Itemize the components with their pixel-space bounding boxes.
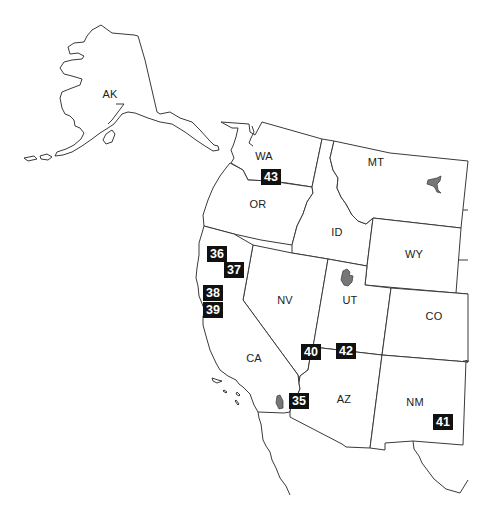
baja-coast [258, 412, 290, 495]
island-aleutian-1 [24, 156, 37, 161]
island-channel-3 [236, 392, 240, 396]
marker-40[interactable]: 40 [301, 344, 321, 360]
state-label-wy: WY [405, 248, 423, 260]
state-label-az: AZ [337, 393, 351, 405]
marker-39[interactable]: 39 [203, 302, 223, 318]
marker-38[interactable]: 38 [203, 285, 223, 301]
rio-grande [413, 441, 468, 493]
marker-43[interactable]: 43 [261, 169, 281, 185]
marker-42[interactable]: 42 [336, 343, 356, 359]
state-label-id: ID [331, 226, 342, 238]
marker-37[interactable]: 37 [224, 262, 244, 278]
state-label-wa: WA [255, 150, 273, 162]
state-label-mt: MT [368, 156, 384, 168]
island-kodiak [103, 130, 115, 144]
marker-41[interactable]: 41 [433, 414, 453, 430]
state-label-or: OR [250, 198, 267, 210]
marker-36[interactable]: 36 [207, 246, 227, 262]
state-label-ut: UT [342, 294, 357, 306]
state-label-ca: CA [246, 352, 262, 364]
state-label-ak: AK [102, 88, 117, 100]
marker-35[interactable]: 35 [289, 393, 309, 409]
island-channel-4 [235, 400, 239, 405]
state-label-nv: NV [277, 294, 293, 306]
state-label-nm: NM [406, 396, 424, 408]
state-shape-co [382, 288, 468, 362]
state-shape-ak [55, 25, 219, 156]
island-aleutian-2 [40, 154, 52, 160]
map-container: AK WA OR MT ID WY NV UT CO CA AZ NM 35 3… [0, 0, 494, 517]
island-channel-2 [223, 390, 227, 393]
island-channel-1 [212, 378, 222, 383]
state-label-co: CO [426, 310, 443, 322]
